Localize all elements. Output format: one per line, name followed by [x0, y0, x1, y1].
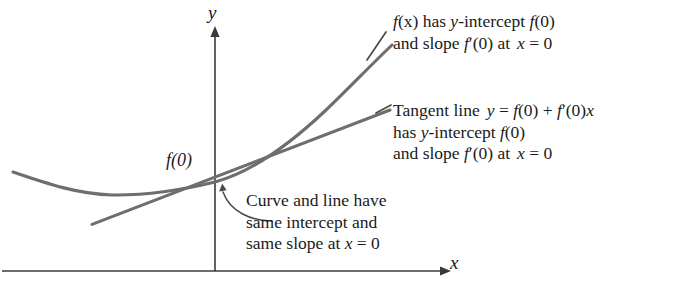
annotation-tangent-note: Tangent liney = f(0) + f′(0)x has y-inte… [393, 100, 594, 165]
y-intercept-label-text: f(0) [166, 150, 192, 170]
tangency-note-text-1: same slope at [246, 233, 345, 253]
tangent-note-text-3: (0) + [518, 100, 557, 120]
tangent-note-text-1: Tangent line [393, 100, 480, 120]
curve-note-text-4: and slope [393, 33, 464, 53]
annotation-tangency-note-line1: Curve and line have [246, 190, 386, 212]
curve-note-var-x: x [517, 33, 525, 53]
annotation-tangent-note-line2: has y-intercept f(0) [393, 122, 594, 144]
y-axis [210, 26, 219, 271]
annotation-tangent-note-line3: and slope f′(0) atx = 0 [393, 143, 594, 165]
curve-note-text-1: (x) has [398, 11, 450, 31]
tangent-note-text-7: (0) [505, 122, 525, 142]
tangent-note-text-9: ′(0) at [469, 143, 510, 163]
curve-note-text-3: (0) [534, 11, 554, 31]
annotation-curve-note-line1: f(x) has y-intercept f(0) [393, 11, 555, 33]
function-curve [13, 45, 392, 195]
annotation-tangency-note-line3: same slope at x = 0 [246, 233, 386, 255]
annotation-curve-note: f(x) has y-intercept f(0) and slope f′(0… [393, 11, 555, 54]
tangent-note-text-8: and slope [393, 143, 464, 163]
annotation-tangency-note: Curve and line have same intercept and s… [246, 190, 386, 255]
tangent-note-text-10: = 0 [525, 143, 552, 163]
tangent-note-text-5: has [393, 122, 421, 142]
tangent-note-var-x-1: x [586, 100, 594, 120]
curve-note-var-y: y [450, 11, 458, 31]
y-axis-label: y [208, 2, 216, 24]
leader-line-curve-note [367, 32, 386, 60]
tangent-note-text-4: ′(0) [562, 100, 586, 120]
annotation-tangency-note-line2: same intercept and [246, 212, 386, 234]
tangent-line-figure: y x f(0) f(x) has y-intercept f(0) and s… [0, 0, 677, 292]
x-axis-label: x [450, 252, 458, 274]
tangent-note-text-2: = [495, 100, 514, 120]
annotation-curve-note-line2: and slope f′(0) atx = 0 [393, 33, 555, 55]
tangent-note-var-y: y [487, 100, 495, 120]
tangent-note-var-x-2: x [517, 143, 525, 163]
curve-note-text-5: ′(0) at [469, 33, 510, 53]
y-intercept-label: f(0) [166, 150, 192, 171]
tangent-note-text-6: -intercept [428, 122, 499, 142]
annotation-tangent-note-line1: Tangent liney = f(0) + f′(0)x [393, 100, 594, 122]
x-axis [2, 266, 451, 275]
curve-note-text-6: = 0 [525, 33, 552, 53]
curve-note-text-2: -intercept [458, 11, 529, 31]
tangency-note-text-2: = 0 [352, 233, 379, 253]
